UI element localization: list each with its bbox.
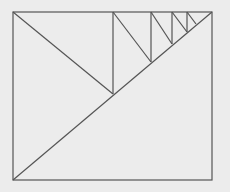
spiral-segments	[13, 12, 196, 94]
spiral-diagram	[0, 0, 230, 192]
spiral-segment	[151, 12, 172, 44]
spiral-segment	[13, 12, 113, 94]
spiral-segment	[172, 12, 187, 32]
spiral-segment	[187, 12, 196, 24]
spiral-segment	[113, 12, 151, 62]
